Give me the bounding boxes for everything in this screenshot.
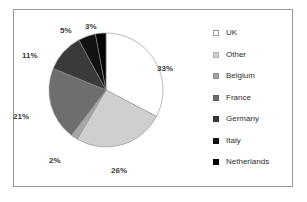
legend-item-label: France — [226, 93, 251, 103]
slice-label-italy: 5% — [60, 26, 72, 35]
legend-item-label: Other — [226, 50, 246, 60]
slice-label-other: 26% — [111, 166, 127, 175]
legend-swatch-icon — [213, 73, 219, 79]
pie-chart-figure: 21% 11% 5% 3% 33% 26% 2% UKOtherBelgiumF… — [0, 0, 307, 202]
legend-item-other[interactable]: Other — [213, 50, 246, 60]
chart-legend: UKOtherBelgiumFranceGermanyItalyNetherla… — [213, 28, 301, 180]
slice-label-uk: 33% — [157, 64, 173, 73]
legend-swatch-icon — [213, 30, 219, 36]
legend-item-uk[interactable]: UK — [213, 28, 237, 38]
legend-item-france[interactable]: France — [213, 93, 251, 103]
pie-svg — [46, 30, 166, 150]
slice-label-germany: 11% — [22, 51, 38, 60]
pie-slices — [49, 33, 163, 147]
slice-label-netherlands: 3% — [85, 22, 97, 31]
legend-item-label: Italy — [226, 136, 241, 146]
legend-item-germany[interactable]: Germany — [213, 114, 259, 124]
legend-item-belgium[interactable]: Belgium — [213, 71, 255, 81]
plot-area: 21% 11% 5% 3% 33% 26% 2% UKOtherBelgiumF… — [13, 9, 293, 187]
slice-label-france: 21% — [13, 112, 29, 121]
legend-swatch-icon — [213, 95, 219, 101]
legend-swatch-icon — [213, 52, 219, 58]
legend-swatch-icon — [213, 138, 219, 144]
legend-item-italy[interactable]: Italy — [213, 136, 241, 146]
legend-item-label: Germany — [226, 114, 259, 124]
legend-item-netherlands[interactable]: Netherlands — [213, 157, 269, 167]
pie-container — [46, 30, 166, 150]
slice-label-belgium: 2% — [49, 156, 61, 165]
legend-swatch-icon — [213, 159, 219, 165]
legend-swatch-icon — [213, 116, 219, 122]
legend-item-label: Belgium — [226, 71, 255, 81]
legend-item-label: Netherlands — [226, 157, 269, 167]
legend-item-label: UK — [226, 28, 237, 38]
